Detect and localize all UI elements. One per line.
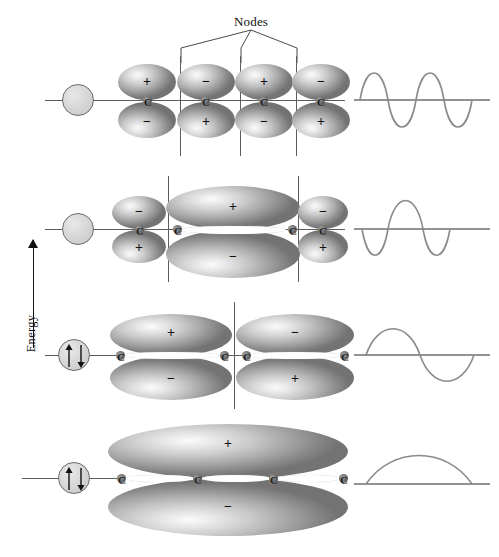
- node-line: [168, 176, 169, 282]
- node-line: [234, 302, 235, 409]
- lobe-sign: +: [138, 75, 156, 89]
- bonding-overlap-slit: [125, 475, 195, 482]
- lobe-sign: +: [162, 326, 180, 340]
- carbon-atom-label: C: [257, 97, 271, 108]
- wavefunction-plot: [352, 192, 492, 266]
- bonding-overlap-slit: [180, 226, 286, 234]
- lobe-sign: −: [130, 205, 148, 219]
- lobe-sign: +: [286, 372, 304, 386]
- occupancy-circle-empty: [62, 213, 94, 245]
- electron-spin-up-arrow: [64, 344, 74, 368]
- electron-spin-down-arrow: [76, 344, 86, 368]
- carbon-atom-label: C: [218, 352, 232, 363]
- lobe-sign: −: [224, 250, 242, 264]
- carbon-atom-label: C: [316, 226, 330, 237]
- lobe-sign: −: [219, 500, 237, 514]
- carbon-atom-label: C: [337, 475, 351, 486]
- occupancy-circle-empty: [62, 84, 94, 116]
- carbon-atom-label: C: [314, 97, 328, 108]
- wavefunction-plot: [352, 62, 492, 138]
- carbon-atom-label: C: [286, 226, 300, 237]
- energy-axis: Energy: [22, 240, 44, 380]
- lobe-sign: −: [138, 115, 156, 129]
- bonding-overlap-slit: [122, 352, 220, 359]
- lobe-sign: +: [130, 241, 148, 255]
- carbon-atom-label: C: [115, 475, 129, 486]
- mo-energy-diagram: Nodes Energy + − C − + C: [0, 0, 499, 557]
- bonding-overlap-slit: [201, 475, 271, 482]
- bonding-overlap-slit: [248, 352, 342, 359]
- electron-spin-up-arrow: [64, 467, 74, 491]
- lobe-sign: +: [219, 437, 237, 451]
- lobe-sign: +: [312, 115, 330, 129]
- carbon-atom-label: C: [199, 97, 213, 108]
- lobe-sign: +: [255, 75, 273, 89]
- carbon-atom-label: C: [141, 97, 155, 108]
- lobe-sign: −: [312, 75, 330, 89]
- lobe-sign: −: [255, 115, 273, 129]
- lobe-sign: −: [314, 205, 332, 219]
- carbon-atom-label: C: [267, 475, 281, 486]
- lobe-sign: −: [286, 326, 304, 340]
- carbon-atom-label: C: [191, 475, 205, 486]
- carbon-atom-label: C: [240, 352, 254, 363]
- bonding-overlap-slit: [277, 475, 341, 482]
- lobe-sign: +: [314, 241, 332, 255]
- lobe-sign: −: [197, 75, 215, 89]
- occupancy-circle-filled[interactable]: [58, 339, 90, 371]
- carbon-atom-label: C: [114, 352, 128, 363]
- energy-axis-label: Energy: [24, 294, 39, 374]
- carbon-atom-label: C: [338, 352, 352, 363]
- lobe-sign: +: [197, 115, 215, 129]
- lobe-sign: +: [224, 200, 242, 214]
- carbon-atom-label: C: [133, 226, 147, 237]
- electron-spin-down-arrow: [76, 467, 86, 491]
- wavefunction-plot: [352, 450, 492, 506]
- wavefunction-plot: [352, 322, 492, 388]
- occupancy-circle-filled[interactable]: [58, 462, 90, 494]
- lobe-sign: −: [162, 372, 180, 386]
- carbon-atom-label: C: [171, 226, 185, 237]
- merged-lobe-top: [108, 424, 348, 479]
